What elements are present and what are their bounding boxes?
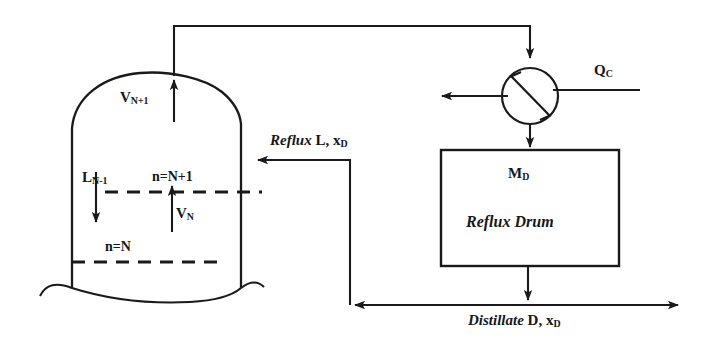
label-stage-n-plus-1: n=N+1 xyxy=(152,170,193,184)
label-vapor-n: VN xyxy=(176,206,194,222)
label-condenser-duty: QC xyxy=(594,63,613,79)
label-reflux-stream: Reflux L, xD xyxy=(270,133,348,149)
label-stage-n: n=N xyxy=(105,240,131,254)
label-liquid-n-minus-1: LN-1 xyxy=(82,170,107,186)
label-reflux-drum: Reflux Drum xyxy=(466,214,554,230)
diagram-canvas: VN+1 LN-1 n=N+1 VN n=N Reflux L, xD QC M… xyxy=(0,0,702,351)
reflux-drum-vessel xyxy=(441,150,619,266)
column-trays xyxy=(72,192,262,262)
reflux-return-line xyxy=(258,160,528,305)
label-distillate-stream: Distillate D, xD xyxy=(468,313,561,329)
label-vapor-n-plus-1: VN+1 xyxy=(120,90,149,106)
label-drum-holdup: MD xyxy=(508,166,529,182)
condenser-symbol xyxy=(502,68,558,124)
distillation-column-shell xyxy=(40,73,264,303)
vapor-overhead-line xyxy=(174,26,530,122)
